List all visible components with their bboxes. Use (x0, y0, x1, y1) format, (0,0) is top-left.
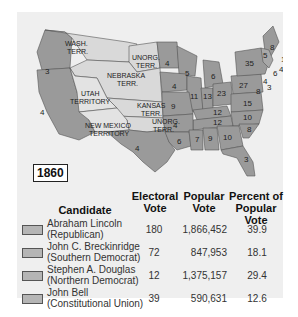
candidate-name: Abraham Lincoln (47, 218, 122, 229)
ev-maryland: 8 (256, 87, 261, 96)
ev-ohio: 23 (217, 89, 226, 98)
ev-wisconsin: 5 (185, 69, 190, 78)
ev-texas: 4 (135, 144, 140, 153)
unorg-south-label-2: TERR. (153, 126, 174, 133)
ev-pennsylvania: 27 (239, 81, 248, 90)
legend-swatch (22, 225, 43, 235)
year-label: 1860 (33, 164, 68, 182)
ev-massachusetts: 13 (281, 55, 283, 64)
candidate-cell: Abraham Lincoln (Republican) (47, 218, 122, 240)
utah-label-2: TERRITORY (70, 98, 111, 105)
ev-virginia: 15 (243, 99, 252, 108)
ev-kentucky: 12 (213, 108, 222, 117)
percent-vote: 18.1 (237, 247, 277, 258)
kansas-label-2: TERR. (141, 110, 162, 117)
nebraska-label: NEBRASKA (107, 72, 145, 79)
florida (221, 146, 255, 176)
map-svg: WASH. TERR. UNORG. TERR. NEBRASKA TERR. … (17, 12, 283, 180)
ev-rhode-island: 4 (279, 65, 283, 74)
candidate-cell: John C. Breckinridge (Southern Democrat) (47, 241, 140, 263)
electoral-vote: 72 (139, 247, 169, 258)
us-map-1860: WASH. TERR. UNORG. TERR. NEBRASKA TERR. … (17, 12, 283, 180)
ev-arkansas: 4 (173, 121, 178, 130)
percent-vote: 39.9 (237, 224, 277, 235)
table-row: Abraham Lincoln (Republican) 180 1,866,4… (17, 218, 283, 242)
candidate-party: (Northern Democrat) (47, 275, 139, 286)
popular-vote: 1,866,452 (167, 224, 227, 235)
ev-florida: 3 (244, 155, 249, 164)
table-row: Stephen A. Douglas (Northern Democrat) 1… (17, 264, 283, 288)
electoral-vote: 12 (139, 270, 169, 281)
ev-alabama: 9 (208, 134, 213, 143)
ev-maine: 8 (270, 43, 275, 52)
ev-tennessee: 12 (213, 118, 222, 127)
ev-illinois: 11 (190, 92, 199, 101)
ev-new-york: 35 (245, 59, 254, 68)
utah-label: UTAH (81, 90, 100, 97)
legend-swatch (22, 294, 43, 304)
ev-delaware: 3 (267, 83, 272, 92)
header-electoral-line1: Electoral (129, 190, 181, 202)
ev-iowa: 4 (172, 82, 177, 91)
ev-oregon: 3 (45, 67, 50, 76)
candidate-cell: John Bell (Constitutional Union) (47, 287, 143, 309)
election-panel: WASH. TERR. UNORG. TERR. NEBRASKA TERR. … (17, 12, 283, 298)
ev-north-carolina: 10 (243, 113, 252, 122)
wash-terr-label: WASH. (65, 40, 88, 47)
candidate-name: John Bell (47, 287, 143, 298)
header-electoral-line2: Vote (129, 202, 181, 214)
ev-minnesota: 4 (165, 59, 170, 68)
wash-terr-label-2: TERR. (67, 48, 88, 55)
ev-michigan: 6 (211, 72, 216, 81)
ev-louisiana: 6 (177, 137, 182, 146)
popular-vote: 1,375,157 (167, 270, 227, 281)
candidate-name: John C. Breckinridge (47, 241, 140, 252)
ev-missouri: 9 (171, 102, 176, 111)
nebraska-label-2: TERR. (117, 80, 138, 87)
electoral-vote: 39 (139, 293, 169, 304)
ev-connecticut: 6 (273, 69, 278, 78)
legend-swatch (22, 248, 43, 258)
ev-south-carolina: 8 (247, 125, 252, 134)
unorg-north-label-2: TERR. (136, 62, 157, 69)
header-percent-line1: Percent of (225, 190, 287, 202)
ev-georgia: 10 (223, 133, 232, 142)
header-popular: Popular Vote (179, 190, 229, 214)
unorg-north-label: UNORG. (132, 54, 160, 61)
candidate-party: (Republican) (47, 229, 122, 240)
header-candidate: Candidate (45, 204, 125, 216)
table-row: John C. Breckinridge (Southern Democrat)… (17, 241, 283, 265)
legend-swatch (22, 271, 43, 281)
candidate-cell: Stephen A. Douglas (Northern Democrat) (47, 264, 139, 286)
electoral-vote: 180 (139, 224, 169, 235)
new-mexico-label: NEW MEXICO (85, 122, 131, 129)
percent-vote: 12.6 (237, 293, 277, 304)
candidate-party: (Constitutional Union) (47, 298, 143, 309)
header-popular-line2: Vote (179, 202, 229, 214)
percent-vote: 29.4 (237, 270, 277, 281)
kansas-label: KANSAS (137, 102, 166, 109)
popular-vote: 847,953 (167, 247, 227, 258)
candidate-party: (Southern Democrat) (47, 252, 140, 263)
ev-mississippi: 7 (195, 135, 200, 144)
header-popular-line1: Popular (179, 190, 229, 202)
ev-indiana: 13 (203, 92, 212, 101)
table-row: John Bell (Constitutional Union) 39 590,… (17, 287, 283, 311)
ev-vermont: 5 (263, 51, 268, 60)
ev-california: 4 (40, 108, 45, 117)
popular-vote: 590,631 (167, 293, 227, 304)
candidate-name: Stephen A. Douglas (47, 264, 139, 275)
new-mexico-label-2: TERRITORY (89, 130, 130, 137)
header-electoral: Electoral Vote (129, 190, 181, 214)
missouri (162, 92, 193, 116)
